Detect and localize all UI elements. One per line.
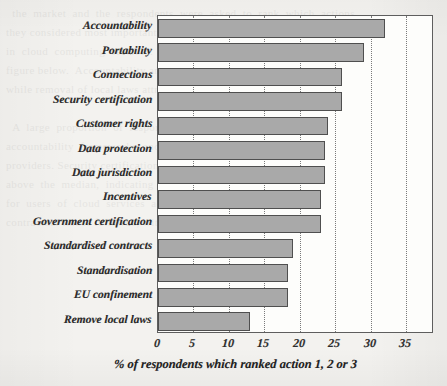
bar: [158, 264, 288, 283]
bar-row: [158, 264, 434, 283]
bar-row: [158, 19, 434, 38]
bar: [158, 312, 250, 331]
bar-row: [158, 190, 434, 209]
category-axis-labels: AccountabilityPortabilityConnectionsSecu…: [0, 15, 155, 333]
bar-row: [158, 117, 434, 136]
bar-chart: AccountabilityPortabilityConnectionsSecu…: [0, 0, 447, 386]
category-label: Accountability: [83, 19, 153, 31]
x-tick-label: 30: [363, 336, 376, 351]
bar: [158, 117, 328, 136]
bar-row: [158, 312, 434, 331]
category-label: Security certification: [52, 93, 152, 105]
bar-row: [158, 68, 434, 87]
bar: [158, 215, 321, 234]
bar: [158, 141, 325, 160]
bar: [158, 239, 293, 258]
category-label: Connections: [92, 68, 152, 80]
category-label: Incentives: [103, 190, 152, 202]
bar: [158, 43, 364, 62]
category-label: Portability: [102, 44, 152, 56]
bars-layer: [158, 16, 432, 332]
x-tick-label: 20: [292, 336, 305, 351]
bar: [158, 190, 321, 209]
bar-row: [158, 288, 434, 307]
x-tick-label: 15: [257, 336, 270, 351]
plot-area: [157, 15, 433, 333]
x-tick-label: 0: [153, 336, 160, 351]
bar-row: [158, 239, 434, 258]
category-label: Government certification: [33, 215, 153, 227]
x-tick-label: 35: [399, 336, 412, 351]
category-label: Standardised contracts: [43, 239, 152, 251]
category-label: Data protection: [78, 142, 152, 154]
category-label: Remove local laws: [64, 313, 152, 325]
category-label: Standardisation: [76, 264, 152, 276]
x-tick-label: 5: [189, 336, 196, 351]
bar-row: [158, 141, 434, 160]
bar-row: [158, 215, 434, 234]
bar: [158, 68, 342, 87]
category-label: EU confinement: [73, 288, 152, 300]
category-label: Data jurisdiction: [71, 166, 152, 178]
bar: [158, 288, 288, 307]
x-tick-label: 25: [328, 336, 341, 351]
bar: [158, 19, 385, 38]
bar-row: [158, 43, 434, 62]
x-axis-title: % of respondents which ranked action 1, …: [0, 357, 447, 372]
bar: [158, 92, 342, 111]
bar-row: [158, 92, 434, 111]
x-tick-label: 10: [221, 336, 234, 351]
bar-row: [158, 166, 434, 185]
value-axis-ticks: 05101520253035: [157, 336, 433, 354]
category-label: Customer rights: [75, 117, 152, 129]
bar: [158, 166, 325, 185]
